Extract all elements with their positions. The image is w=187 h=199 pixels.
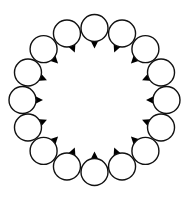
ring-of-circles-diagram	[0, 0, 187, 199]
ring-node	[9, 87, 43, 114]
circle-node	[148, 59, 175, 86]
ring-node	[131, 136, 159, 164]
ring-node	[30, 136, 58, 164]
circle-node	[81, 15, 108, 42]
ring-node	[131, 36, 159, 64]
circle-node	[9, 87, 36, 114]
ring-node	[30, 36, 58, 64]
circle-node	[30, 137, 57, 164]
diagram-canvas	[0, 0, 187, 199]
circle-node	[81, 159, 108, 186]
circle-node	[132, 36, 159, 63]
circle-node	[14, 114, 41, 141]
circle-node	[148, 114, 175, 141]
circle-node	[153, 87, 180, 114]
circle-node	[30, 36, 57, 63]
circle-node	[109, 153, 136, 180]
circle-node	[132, 137, 159, 164]
ring-node	[81, 152, 108, 186]
circle-node	[53, 153, 80, 180]
circle-node	[14, 59, 41, 86]
ring-node	[146, 87, 180, 114]
ring-node	[81, 15, 108, 49]
circle-node	[53, 20, 80, 47]
circle-node	[109, 20, 136, 47]
